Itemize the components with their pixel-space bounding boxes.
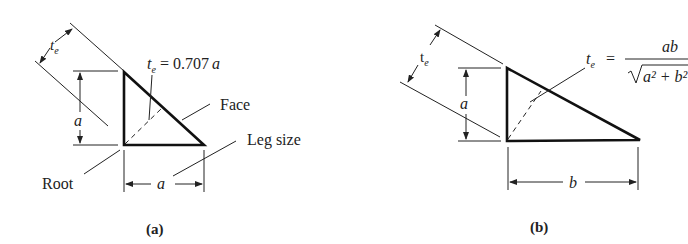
face-label: Face — [220, 96, 250, 113]
caption-b: (b) — [530, 219, 548, 236]
figure-a: te a te= 0.707a Face Leg size Root a (a) — [35, 23, 301, 238]
root-leader — [84, 150, 120, 174]
weld-throat-diagram: te a te= 0.707a Face Leg size Root a (a) — [0, 0, 688, 244]
weld-triangle-b — [507, 68, 640, 141]
leg-size-label: Leg size — [247, 131, 301, 149]
horizontal-leg-label: a — [157, 175, 165, 192]
horizontal-leg-label: b — [569, 174, 577, 191]
throat-extension-line-upper — [435, 25, 503, 64]
throat-dim-arrow-lower — [40, 48, 50, 63]
vertical-leg-label: a — [74, 112, 82, 129]
throat-formula-numerator: ab — [662, 38, 678, 55]
throat-extension-line-upper — [70, 23, 124, 71]
root-label: Root — [42, 175, 74, 192]
throat-formula-denominator: a² + b² — [643, 68, 688, 85]
weld-triangle-a — [124, 72, 204, 145]
throat-dashed-line — [125, 108, 162, 144]
throat-dim-arrow-upper — [430, 30, 440, 45]
throat-dim-arrow-lower — [408, 65, 418, 82]
throat-formula-te: te — [586, 50, 595, 70]
throat-extension-line-lower — [400, 82, 500, 137]
throat-formula-equals: = — [606, 50, 615, 67]
throat-formula-a: te= 0.707a — [147, 55, 220, 75]
face-leader — [182, 104, 210, 120]
caption-a: (a) — [146, 221, 164, 238]
throat-label-te: te — [420, 49, 429, 68]
throat-dim-arrow-upper — [55, 29, 72, 42]
figure-b: te a te = ab a² + b² b (b) — [400, 25, 688, 236]
vertical-leg-label: a — [460, 95, 468, 112]
